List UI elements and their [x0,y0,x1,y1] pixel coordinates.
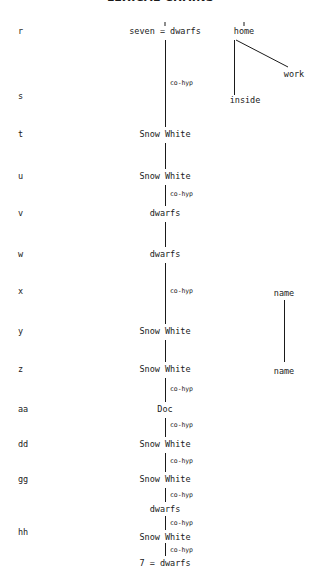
chain-node-doc: Doc [157,404,172,414]
figure-title: LEXICAL CHAINS [0,0,321,4]
chain-edge-t-u [165,143,166,169]
row-label-hh: hh [18,527,28,537]
home-edge-work [236,40,288,67]
edge-label-cohyp-2: co-hyp [170,190,193,198]
row-label-gg: gg [18,474,28,484]
chain-edge-y-z [165,340,166,362]
chain-node-snow-white-z: Snow White [139,364,190,374]
chain-node-snow-white-hh: Snow White [139,532,190,542]
edge-label-cohyp-8: co-hyp [170,519,193,527]
chain-edge-dd-gg [165,453,166,472]
row-label-aa: aa [18,404,28,414]
row-label-r: r [18,26,23,36]
row-label-dd: dd [18,439,28,449]
edge-label-cohyp-9: co-hyp [170,546,193,554]
chain-edge-z-aa [165,378,166,402]
chain-edge-w-y [165,263,166,324]
home-edge-inside [234,40,235,95]
chain-node-snow-white-dd: Snow White [139,439,190,449]
edge-label-cohyp-1: co-hyp [170,79,193,87]
lexical-chain-figure: LEXICAL CHAINS r s t u v w x y z aa dd g… [0,0,321,586]
row-label-z: z [18,364,23,374]
row-label-x: x [18,286,23,296]
chain-node-dwarfs-v: dwarfs [150,208,181,218]
edge-label-cohyp-5: co-hyp [170,421,193,429]
chain-node-7-dwarfs: 7 = dwarfs [139,558,190,568]
chain-edge-aa-dd [165,418,166,437]
row-label-y: y [18,326,23,336]
chain-node-snow-white-u: Snow White [139,171,190,181]
row-label-u: u [18,171,23,181]
chain-edge-u-v [165,185,166,206]
chain-node-dwarfs-w: dwarfs [150,249,181,259]
chain-node-snow-white-gg: Snow White [139,474,190,484]
name-node-x: name [274,288,294,298]
name-chain-edge [284,300,285,362]
chain-edge-gg2 [165,516,166,530]
chain-edge-hh [165,543,166,556]
chain-node-snow-white-t: Snow White [139,129,190,139]
chain-edge-r-t [165,40,166,127]
home-node-home: home [234,26,254,36]
figure-title-strip: LEXICAL CHAINS [0,0,321,5]
home-node-inside: inside [230,95,261,105]
chain-node-snow-white-y: Snow White [139,326,190,336]
row-label-w: w [18,249,23,259]
edge-label-cohyp-7: co-hyp [170,491,193,499]
chain-node-seven-dwarfs: seven = dwarfs [129,26,201,36]
row-label-s: s [18,91,23,101]
edge-label-cohyp-3: co-hyp [170,287,193,295]
home-node-work: work [284,69,304,79]
row-label-t: t [18,129,23,139]
chain-edge-gg1 [165,488,166,502]
edge-label-cohyp-4: co-hyp [170,385,193,393]
name-node-z: name [274,366,294,376]
chain-node-dwarfs-gg: dwarfs [150,504,181,514]
chain-edge-v-w [165,222,166,247]
edge-label-cohyp-6: co-hyp [170,457,193,465]
row-label-v: v [18,208,23,218]
